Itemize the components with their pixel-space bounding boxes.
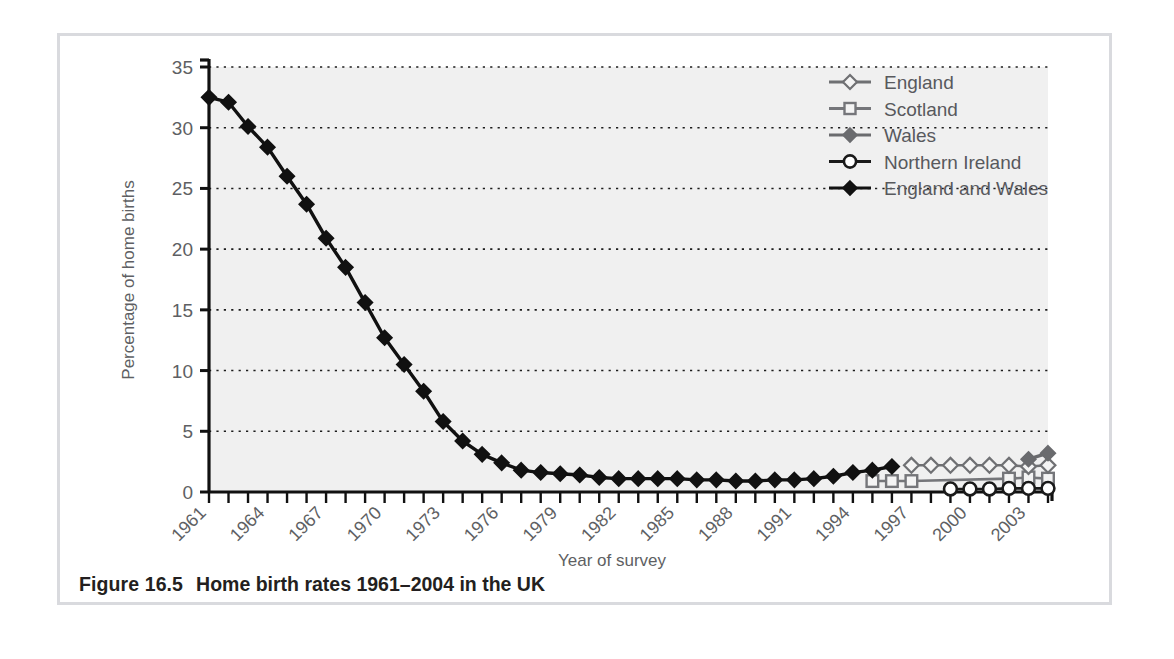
x-tick-label-1964: 1964 xyxy=(226,503,268,545)
data-point-marker xyxy=(844,155,856,167)
y-tick-label-0: 0 xyxy=(182,482,193,503)
caption-figure-number: Figure 16.5 xyxy=(79,573,183,595)
data-point-marker xyxy=(886,475,898,487)
y-tick-label-35: 35 xyxy=(172,57,193,78)
figure-caption: Figure 16.5Home birth rates 1961–2004 in… xyxy=(79,573,545,596)
x-tick-label-1994: 1994 xyxy=(811,503,853,545)
data-point-marker xyxy=(983,483,996,496)
data-point-marker xyxy=(944,483,957,496)
x-tick-label-1970: 1970 xyxy=(343,503,385,545)
y-axis-ticks: 05101520253035 xyxy=(172,57,209,503)
x-tick-label-1976: 1976 xyxy=(460,503,502,545)
x-axis-ticks xyxy=(209,492,1048,503)
y-tick-label-10: 10 xyxy=(172,361,193,382)
y-tick-label-25: 25 xyxy=(172,178,193,199)
data-point-marker xyxy=(964,483,977,496)
figure-container: 0510152025303519611964196719701973197619… xyxy=(0,0,1174,659)
x-axis-title: Year of survey xyxy=(558,551,667,570)
data-point-marker xyxy=(1003,482,1016,495)
x-tick-label-1982: 1982 xyxy=(577,503,619,545)
y-axis-title: Percentage of home births xyxy=(119,180,138,379)
y-tick-label-30: 30 xyxy=(172,118,193,139)
x-tick-label-1973: 1973 xyxy=(402,503,444,545)
x-tick-label-1979: 1979 xyxy=(519,503,561,545)
legend-item-wales-label: Wales xyxy=(884,125,936,146)
data-point-marker xyxy=(844,103,855,114)
y-tick-label-20: 20 xyxy=(172,239,193,260)
y-tick-label-5: 5 xyxy=(182,421,193,442)
x-axis-tick-labels: 1961196419671970197319761979198219851988… xyxy=(167,503,1029,545)
legend-item-england-label: England xyxy=(884,72,954,93)
x-tick-label-1961: 1961 xyxy=(167,503,209,545)
data-point-marker xyxy=(906,475,918,487)
caption-text: Home birth rates 1961–2004 in the UK xyxy=(196,573,545,595)
x-tick-label-2003: 2003 xyxy=(987,503,1029,545)
legend-item-northern-ireland-label: Northern Ireland xyxy=(884,152,1021,173)
home-birth-rates-chart: 0510152025303519611964196719701973197619… xyxy=(0,0,1174,659)
x-tick-label-1985: 1985 xyxy=(636,503,678,545)
x-tick-label-1991: 1991 xyxy=(753,503,795,545)
x-tick-label-1997: 1997 xyxy=(870,503,912,545)
x-tick-label-1988: 1988 xyxy=(694,503,736,545)
data-point-marker xyxy=(1042,482,1055,495)
x-tick-label-2000: 2000 xyxy=(928,503,970,545)
x-tick-label-1967: 1967 xyxy=(284,503,326,545)
legend-item-scotland-label: Scotland xyxy=(884,99,958,120)
data-point-marker xyxy=(1022,482,1035,495)
legend-item-england-and-wales-label: England and Wales xyxy=(884,178,1048,199)
y-tick-label-15: 15 xyxy=(172,300,193,321)
